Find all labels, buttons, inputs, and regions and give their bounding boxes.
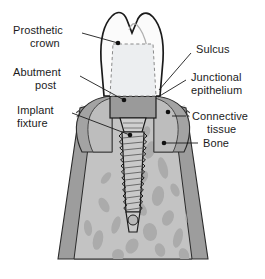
label-connective-tissue: Connective <box>192 110 248 122</box>
label-junctional-epithelium-line2: epithelium <box>191 84 242 96</box>
diagram-canvas: Prosthetic crown Abutment post Implant f… <box>0 0 265 279</box>
abutment-collar-body <box>110 96 156 118</box>
label-implant-fixture-line2: fixture <box>17 117 48 129</box>
label-implant-fixture: Implant <box>17 104 54 116</box>
abutment-post-ghost <box>110 44 156 96</box>
label-connective-tissue-line2: tissue <box>207 123 236 135</box>
implant-neck <box>120 118 146 132</box>
label-sulcus: Sulcus <box>196 43 230 55</box>
abutment-collar <box>110 96 156 118</box>
dot-implant-fixture <box>128 133 133 138</box>
label-prosthetic-crown: Prosthetic <box>13 24 63 36</box>
label-junctional-epithelium: Junctional <box>191 71 242 83</box>
dot-connective-tissue <box>166 110 171 115</box>
abutment-post-dashed-outline <box>110 44 156 96</box>
label-abutment-post: Abutment <box>13 66 61 78</box>
label-prosthetic-crown-line2: crown <box>30 37 60 49</box>
dot-abutment-post <box>122 98 127 103</box>
label-bone: Bone <box>203 137 229 149</box>
dental-implant-diagram: Prosthetic crown Abutment post Implant f… <box>0 0 265 279</box>
dot-bone <box>162 141 167 146</box>
implant-apical-hole <box>128 215 138 225</box>
dot-prosthetic-crown <box>116 41 121 46</box>
label-abutment-post-line2: post <box>35 79 56 91</box>
